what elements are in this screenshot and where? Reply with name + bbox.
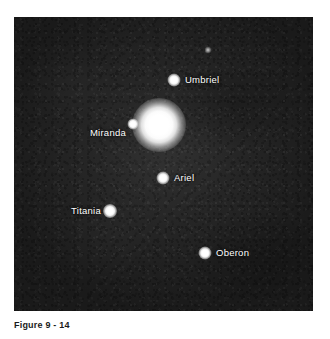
label-umbriel: Umbriel <box>185 75 219 85</box>
label-oberon: Oberon <box>216 248 249 258</box>
frame-vignette <box>14 17 313 311</box>
figure-caption: Figure 9 - 14 <box>14 320 313 331</box>
label-miranda: Miranda <box>90 128 126 138</box>
astronomy-figure-frame: UmbrielMirandaArielTitaniaOberon <box>14 17 313 311</box>
label-titania: Titania <box>71 206 101 216</box>
label-ariel: Ariel <box>174 173 194 183</box>
